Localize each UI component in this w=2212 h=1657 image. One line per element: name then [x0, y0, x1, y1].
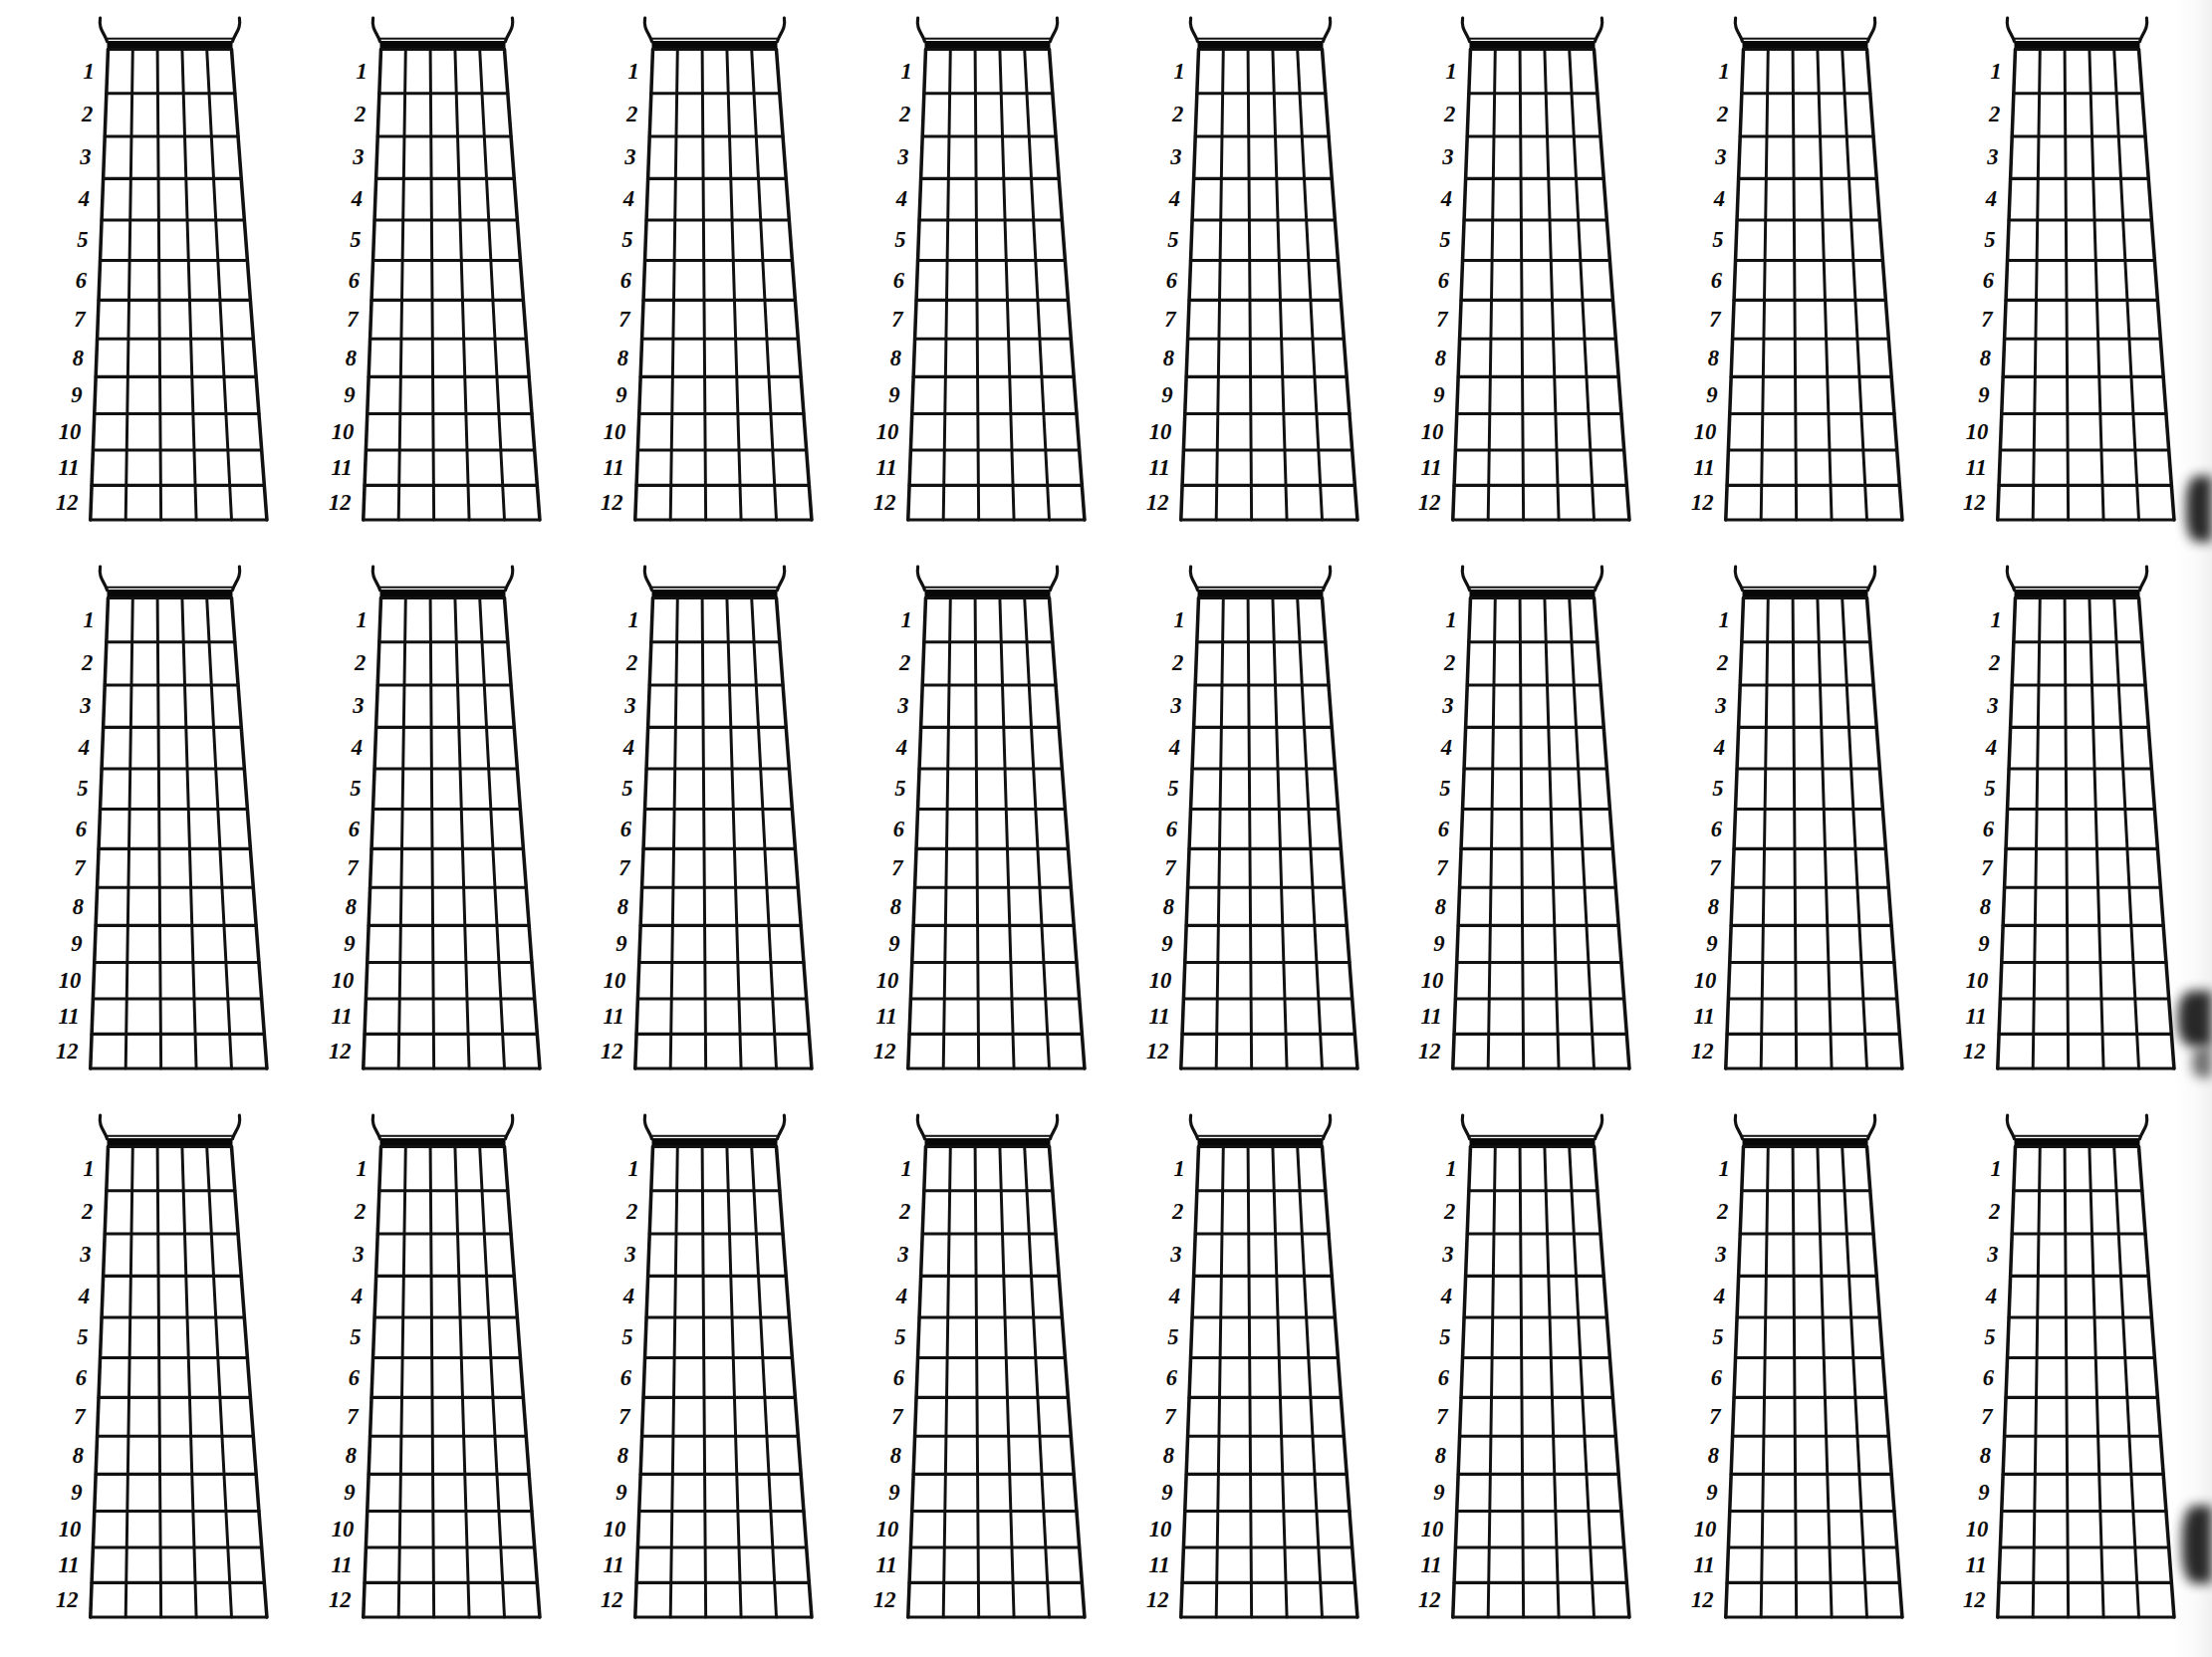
- fretboard-diagram[interactable]: 123456789101112: [1376, 1119, 1649, 1657]
- nut-curl-left-icon: [1462, 18, 1469, 42]
- fret-number-labels: 123456789101112: [329, 59, 368, 515]
- fretboard-diagram[interactable]: 123456789101112: [14, 22, 287, 571]
- fretboard-diagram[interactable]: 123456789101112: [1649, 22, 1922, 571]
- nut-curl-right-icon: [2140, 18, 2147, 42]
- fret-number: 12: [1691, 1039, 1714, 1064]
- fret-number: 11: [1693, 455, 1714, 480]
- nut-curl-left-icon: [1735, 567, 1742, 591]
- fret-number: 3: [1987, 1243, 1999, 1268]
- nut-curl-left-icon: [1190, 1115, 1197, 1139]
- fretboard-diagram[interactable]: 123456789101112: [1105, 22, 1377, 571]
- fretboard-diagram[interactable]: 123456789101112: [1649, 1119, 1922, 1657]
- fret-lines: [635, 1147, 812, 1617]
- fret-number: 10: [331, 968, 354, 993]
- fretboard-diagram[interactable]: 123456789101112: [287, 22, 560, 571]
- fretboard-diagram[interactable]: 123456789101112: [559, 571, 832, 1119]
- fret-number: 11: [59, 455, 80, 480]
- fretboard-diagram[interactable]: 123456789101112: [287, 571, 560, 1119]
- fret-number: 3: [1987, 144, 1999, 169]
- fret-number: 6: [1710, 268, 1722, 293]
- fretboard-diagram[interactable]: 123456789101112: [14, 1119, 287, 1657]
- nut-curl-left-icon: [2008, 1115, 2015, 1139]
- fret-number: 5: [894, 777, 905, 802]
- fret-number: 4: [1985, 735, 1997, 760]
- fretboard-diagram[interactable]: 123456789101112: [14, 571, 287, 1119]
- fret-number: 3: [896, 144, 908, 169]
- fret-number: 3: [79, 144, 91, 169]
- fret-lines: [1998, 50, 2174, 520]
- fret-lines: [908, 1147, 1085, 1617]
- nut: [2015, 588, 2140, 593]
- fret-number: 2: [898, 102, 910, 126]
- fretboard-diagram[interactable]: 123456789101112: [287, 1119, 560, 1657]
- fret-number: 9: [616, 1480, 627, 1505]
- fret-number: 12: [1963, 490, 1986, 515]
- fret-number: 7: [1709, 855, 1722, 880]
- fret-number: 5: [1439, 1325, 1450, 1350]
- fret-number: 10: [604, 968, 626, 993]
- fret-number: 3: [1169, 693, 1181, 718]
- fret-number: 2: [1988, 1200, 2000, 1225]
- fret-number: 3: [624, 144, 636, 169]
- fretboard-diagram[interactable]: 123456789101112: [559, 22, 832, 571]
- nut-curl-right-icon: [1596, 567, 1602, 591]
- fret-number: 5: [1712, 1325, 1723, 1350]
- fret-number: 1: [1446, 607, 1457, 632]
- fret-number: 1: [1718, 1156, 1729, 1181]
- fret-number: 2: [1443, 102, 1455, 126]
- fret-number: 7: [891, 307, 904, 332]
- fret-number: 7: [618, 1404, 631, 1429]
- fret-number: 4: [78, 1285, 90, 1309]
- fret-number: 5: [1985, 227, 1996, 252]
- fret-number: 12: [56, 490, 79, 515]
- nut: [1742, 588, 1867, 593]
- fretboard-diagram[interactable]: 123456789101112: [1105, 571, 1377, 1119]
- fret-number: 9: [1979, 1480, 1990, 1505]
- fret-number: 8: [1980, 346, 1991, 370]
- fretboard-diagram[interactable]: 123456789101112: [1921, 22, 2194, 571]
- fret-number: 9: [1161, 1480, 1172, 1505]
- nut: [924, 588, 1050, 593]
- fretboard-diagram[interactable]: 123456789101112: [1376, 22, 1649, 571]
- fret-lines: [1453, 598, 1629, 1068]
- fret-number: 7: [1436, 1404, 1449, 1429]
- fretboard-diagram[interactable]: 123456789101112: [832, 22, 1105, 571]
- fret-number: 1: [900, 607, 911, 632]
- fretboard-diagram[interactable]: 123456789101112: [832, 571, 1105, 1119]
- nut: [1197, 39, 1323, 45]
- fret-number: 11: [1148, 455, 1169, 480]
- fret-number: 8: [1162, 346, 1173, 370]
- fret-number: 1: [84, 59, 95, 84]
- fret-lines: [635, 598, 812, 1068]
- fretboard-diagram[interactable]: 123456789101112: [559, 1119, 832, 1657]
- fret-number: 4: [1440, 735, 1452, 760]
- fret-lines: [1726, 50, 1902, 520]
- fretboard-diagram[interactable]: 123456789101112: [1105, 1119, 1377, 1657]
- fret-number: 7: [1164, 1404, 1177, 1429]
- nut-curl-right-icon: [1050, 18, 1057, 42]
- fret-number: 2: [625, 651, 637, 676]
- fret-number: 9: [344, 382, 355, 407]
- fret-number: 3: [1169, 144, 1181, 169]
- fretboard-diagram[interactable]: 123456789101112: [832, 1119, 1105, 1657]
- nut-curl-right-icon: [778, 1115, 785, 1139]
- fret-number: 6: [1438, 268, 1450, 293]
- fretboard-diagram[interactable]: 123456789101112: [1376, 571, 1649, 1119]
- fret-number: 12: [329, 1587, 352, 1612]
- fret-number: 1: [1718, 607, 1729, 632]
- fret-number: 6: [1165, 1365, 1177, 1390]
- fret-number: 3: [624, 1243, 636, 1268]
- fretboard-diagram[interactable]: 123456789101112: [1921, 571, 2194, 1119]
- fret-number: 5: [350, 777, 361, 802]
- fret-number: 7: [1436, 307, 1449, 332]
- fret-number: 8: [345, 1443, 356, 1468]
- fret-number: 7: [1164, 307, 1177, 332]
- fretboard-diagram[interactable]: 123456789101112: [1921, 1119, 2194, 1657]
- fret-number: 1: [1173, 607, 1184, 632]
- nut-curl-right-icon: [1867, 567, 1874, 591]
- nut: [108, 588, 233, 593]
- fretboard-diagram[interactable]: 123456789101112: [1649, 571, 1922, 1119]
- fret-number: 6: [893, 268, 905, 293]
- fret-number: 9: [616, 382, 627, 407]
- fret-number-labels: 123456789101112: [56, 1156, 95, 1612]
